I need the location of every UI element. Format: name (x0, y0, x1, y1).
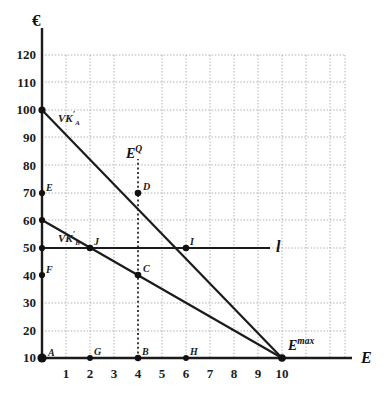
x-tick-7: 7 (200, 367, 220, 380)
curve-label-vk-b-base: VK (58, 232, 73, 244)
label-e-max: Emax (288, 337, 314, 353)
label-e-max-sup: max (297, 336, 314, 346)
label-e-q-sup: Q (135, 144, 142, 154)
x-axis-title: E (361, 350, 372, 366)
curve-label-vk-b-sub: B (75, 239, 80, 246)
point-label-A: A (48, 348, 55, 358)
point-y40 (39, 245, 45, 251)
x-tick-3: 3 (104, 367, 124, 380)
point-label-D: D (143, 182, 150, 192)
point-vka-intercept (38, 106, 45, 113)
point-F (39, 272, 45, 278)
y-tick-120: 120 (4, 48, 36, 61)
curve-label-vk-b-prime: ′ (73, 229, 75, 239)
curve-label-vk-a-base: VK (58, 112, 73, 124)
y-tick-60: 60 (4, 214, 36, 227)
x-tick-6: 6 (176, 367, 196, 380)
point-G (87, 355, 93, 361)
curve-label-vk-a-sub: A (75, 119, 80, 126)
point-label-C: C (143, 264, 150, 274)
x-tick-2: 2 (80, 367, 100, 380)
point-label-G: G (94, 347, 101, 357)
line-label-l: l (276, 239, 280, 255)
y-tick-80: 80 (4, 159, 36, 172)
point-I (183, 245, 190, 252)
point-D (135, 190, 142, 197)
x-tick-4: 4 (128, 367, 148, 380)
y-tick-30: 30 (4, 296, 36, 309)
y-tick-20: 20 (4, 324, 36, 337)
x-tick-9: 9 (248, 367, 268, 380)
point-label-F: F (46, 265, 53, 275)
point-vkb-intercept (39, 217, 45, 223)
y-tick-10: 10 (4, 351, 36, 364)
y-tick-100: 100 (4, 103, 36, 116)
point-A (37, 353, 46, 362)
point-label-I: I (190, 237, 194, 247)
grid-horizontal (42, 55, 345, 331)
label-e-q: EQ (126, 145, 142, 161)
y-tick-50: 50 (4, 241, 36, 254)
chart-svg (0, 0, 387, 398)
point-E (39, 190, 45, 196)
point-label-H: H (190, 347, 198, 357)
x-tick-1: 1 (56, 367, 76, 380)
y-tick-40: 40 (4, 269, 36, 282)
point-H (183, 355, 189, 361)
y-tick-70: 70 (4, 186, 36, 199)
label-e-q-base: E (126, 146, 135, 161)
curve-label-vk-a-prime: ′ (73, 109, 75, 119)
y-tick-110: 110 (4, 76, 36, 89)
point-label-J: J (94, 237, 99, 247)
point-label-E: E (46, 183, 53, 193)
chart-canvas: € E 120 110 100 90 80 70 60 50 40 30 20 … (0, 0, 387, 398)
point-label-B: B (142, 347, 149, 357)
curve-label-vk-b: VK′B (58, 230, 80, 247)
point-B (135, 355, 141, 361)
y-axis-title: € (32, 12, 41, 29)
point-Emax (278, 354, 286, 362)
y-tick-90: 90 (4, 131, 36, 144)
point-C (135, 272, 142, 279)
grid-vertical (66, 55, 345, 358)
x-tick-8: 8 (224, 367, 244, 380)
label-e-max-base: E (288, 338, 297, 353)
curve-label-vk-a: VK′A (58, 110, 80, 127)
point-J (87, 245, 94, 252)
x-tick-10: 10 (270, 367, 294, 380)
x-tick-5: 5 (152, 367, 172, 380)
